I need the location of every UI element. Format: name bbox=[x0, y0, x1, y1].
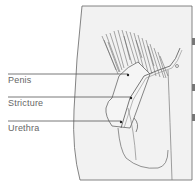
label-penis: Penis bbox=[8, 76, 32, 85]
edge-tab bbox=[192, 114, 195, 121]
label-stricture: Stricture bbox=[8, 99, 43, 108]
edge-tab bbox=[192, 38, 195, 45]
urethral-stricture-diagram: Penis Stricture Urethra bbox=[0, 0, 195, 187]
label-urethra: Urethra bbox=[8, 124, 39, 133]
anatomy-illustration bbox=[0, 0, 195, 187]
edge-tab bbox=[192, 84, 195, 91]
